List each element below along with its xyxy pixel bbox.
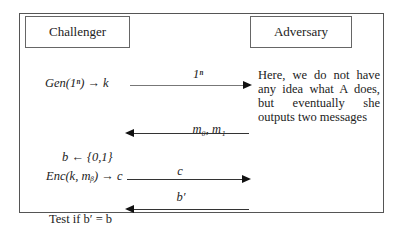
message-label-m0m1: m₀, m₁ (193, 122, 226, 137)
adversary-note: Here, we do not have any idea what A doe… (258, 68, 380, 124)
gen-step: Gen(1ⁿ) → k (45, 76, 109, 91)
enc-step: Enc(k, mᵦ) → c (46, 169, 122, 184)
sample-b-step: b ← {0,1} (62, 150, 113, 165)
adversary-box: Adversary (250, 16, 352, 48)
adversary-label: Adversary (274, 24, 328, 40)
arrowhead-left-icon (125, 129, 134, 137)
test-step: Test if b′ = b (49, 212, 112, 227)
message-label-bprime: b′ (177, 190, 186, 205)
arrow-left-bprime (127, 209, 249, 210)
challenger-box: Challenger (25, 16, 130, 48)
challenger-label: Challenger (49, 24, 106, 40)
arrow-right-c (127, 179, 249, 180)
message-label-c: c (177, 164, 183, 179)
arrow-right-1n (130, 85, 250, 86)
arrow-left-m0m1 (127, 133, 249, 134)
arrowhead-right-icon (243, 81, 252, 89)
arrowhead-left-icon (125, 205, 134, 213)
message-label-1n: 1ⁿ (193, 67, 203, 82)
arrowhead-right-icon (242, 175, 251, 183)
